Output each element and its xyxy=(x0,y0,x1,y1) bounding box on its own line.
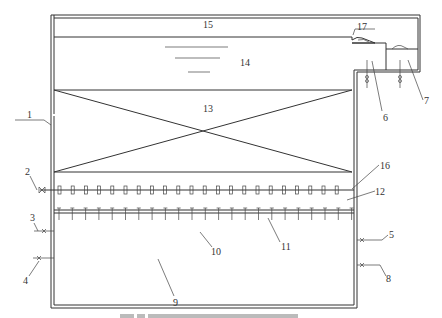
label-12: 12 xyxy=(375,186,385,197)
label-3: 3 xyxy=(30,212,35,223)
label-6: 6 xyxy=(383,112,388,123)
label-15: 15 xyxy=(203,19,213,30)
apparatus-diagram: 1 2 3 4 5 6 7 8 9 10 11 12 13 14 15 16 1… xyxy=(0,0,442,318)
label-16: 16 xyxy=(380,160,390,171)
label-4: 4 xyxy=(23,275,28,286)
label-5: 5 xyxy=(389,229,394,240)
perforated-pipe xyxy=(54,208,354,220)
figure-caption xyxy=(120,306,320,314)
tank-outer-wall xyxy=(51,15,420,308)
label-7: 7 xyxy=(424,95,429,106)
valves xyxy=(33,187,375,267)
label-10: 10 xyxy=(211,246,221,257)
label-11: 11 xyxy=(281,241,291,252)
distribution-pipe xyxy=(40,186,354,194)
water-level-symbol xyxy=(165,47,228,72)
label-17: 17 xyxy=(357,21,367,32)
overflow-trough xyxy=(352,37,418,88)
label-13: 13 xyxy=(203,103,213,114)
label-2: 2 xyxy=(25,166,30,177)
label-8: 8 xyxy=(386,273,391,284)
label-14: 14 xyxy=(240,57,250,68)
label-1: 1 xyxy=(27,109,32,120)
